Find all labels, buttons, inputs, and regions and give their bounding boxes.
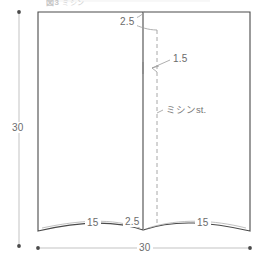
panel-outline	[38, 12, 250, 231]
figure-caption-text: ミシン	[62, 0, 85, 6]
label-bottom-left-span: 15	[85, 217, 101, 228]
figure-caption-number: 図3	[46, 0, 59, 7]
leader-stitch-note	[157, 110, 163, 113]
label-stitch-note: ミシンst.	[164, 104, 208, 115]
label-top-offset: 2.5	[118, 16, 137, 27]
label-seam-allowance: 1.5	[171, 53, 190, 64]
dim-height-endpoint-top	[17, 10, 21, 14]
dim-height-endpoint-bottom	[17, 244, 21, 248]
label-height: 30	[10, 122, 26, 133]
leader-seam-allowance-arrowhead	[152, 66, 159, 72]
label-bottom-right-span: 15	[195, 217, 211, 228]
label-bottom-center-span: 2.5	[123, 216, 142, 227]
dim-width-endpoint-left	[36, 246, 40, 250]
leader-seam-allowance	[152, 60, 170, 68]
label-width: 30	[137, 242, 153, 253]
leader-top-offset-lower	[133, 24, 157, 30]
dim-width-endpoint-right	[248, 246, 252, 250]
figure-caption: 図3 ミシン	[46, 0, 85, 7]
diagram-canvas: 図3 ミシン 2.5 1.5 ミシンst. 15 2.5 15 30 30	[0, 0, 263, 261]
